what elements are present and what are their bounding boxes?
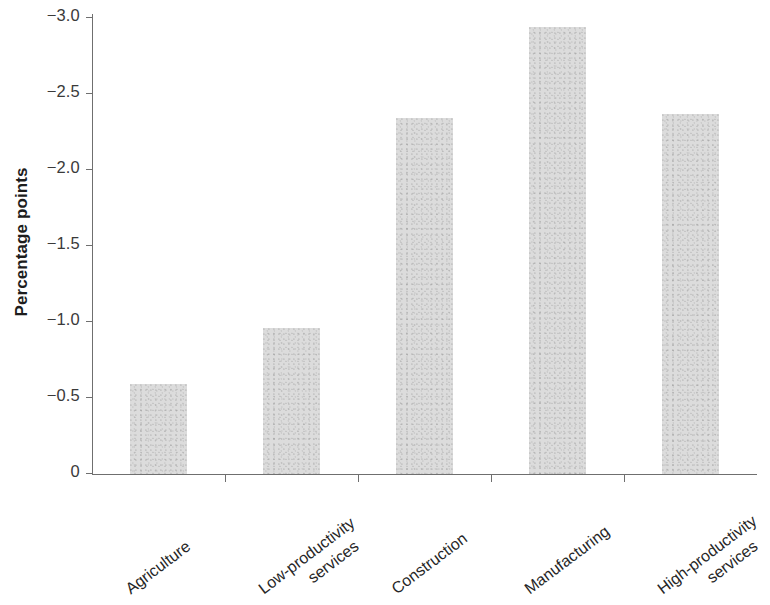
x-axis-category-label: Construction xyxy=(387,528,471,599)
x-axis-tick xyxy=(225,474,226,482)
x-axis-category-label: High-productivityservices xyxy=(653,510,770,605)
x-axis-line xyxy=(92,474,757,475)
x-axis-tick xyxy=(491,474,492,482)
y-axis-tick-label: −2.0 xyxy=(0,158,80,177)
bar xyxy=(662,114,719,474)
bar xyxy=(396,118,453,474)
y-axis-tick-mark xyxy=(86,397,93,398)
y-axis-tick-label: 0 xyxy=(0,462,80,481)
bar xyxy=(529,27,586,474)
x-axis-tick xyxy=(358,474,359,482)
bar-chart-figure: Percentage points −3.0−2.5−2.0−1.5−1.0−0… xyxy=(0,0,770,605)
y-axis-tick-mark xyxy=(86,321,93,322)
x-axis-tick xyxy=(624,474,625,482)
y-axis-tick-label: −1.5 xyxy=(0,234,80,253)
y-axis-tick-label: −0.5 xyxy=(0,386,80,405)
y-axis-tick-mark xyxy=(86,473,93,474)
y-axis-tick-label: −2.5 xyxy=(0,82,80,101)
y-axis-tick-mark xyxy=(86,245,93,246)
x-axis-category-label-line: Manufacturing xyxy=(521,523,612,598)
x-axis-category-label-line: Construction xyxy=(388,530,470,598)
y-axis-tick-mark xyxy=(86,93,93,94)
x-axis-category-label: Agriculture xyxy=(121,536,195,599)
x-axis-category-label: Low-productivityservices xyxy=(254,512,372,605)
bar xyxy=(130,384,187,474)
x-axis-category-label: Manufacturing xyxy=(520,521,614,599)
y-axis-tick-mark xyxy=(86,169,93,170)
bar xyxy=(263,328,320,474)
y-axis-tick-mark xyxy=(86,17,93,18)
y-axis-tick-label: −1.0 xyxy=(0,310,80,329)
x-axis-category-label-line: Agriculture xyxy=(122,538,193,598)
y-axis-tick-label: −3.0 xyxy=(0,6,80,25)
